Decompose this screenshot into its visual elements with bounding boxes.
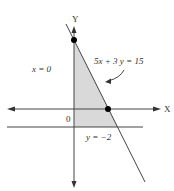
point-y-intercept — [71, 37, 77, 43]
pointer-arrowhead-icon — [105, 79, 111, 85]
x-axis-left-arrow-icon — [7, 107, 15, 112]
label-y-minus-2: y = −2 — [85, 132, 112, 142]
label-5x-3y-15: 5x + 3 y = 15 — [94, 56, 144, 66]
x-axis-label: X — [164, 104, 171, 114]
label-x-equals-0: x = 0 — [31, 64, 52, 74]
y-axis-down-arrow-icon — [72, 181, 77, 188]
y-axis-label: Y — [72, 14, 79, 24]
origin-label: 0 — [66, 114, 71, 124]
diagram: Y X 0 x = 0 5x + 3 y = 15 y = −2 — [0, 0, 174, 191]
y-axis-up-arrow-icon — [72, 26, 77, 33]
x-axis-right-arrow-icon — [153, 107, 161, 112]
point-x-intercept — [105, 106, 111, 112]
